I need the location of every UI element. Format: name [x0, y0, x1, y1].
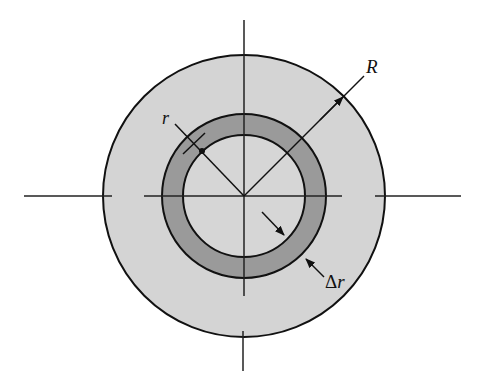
delta-symbol: Δ — [325, 271, 337, 292]
ring-thickness-variable: r — [337, 271, 344, 292]
inner-radius-point — [199, 148, 205, 154]
inner-radius-label: r — [162, 109, 169, 127]
concentric-circles-diagram — [0, 0, 483, 382]
ring-thickness-label: Δr — [325, 272, 345, 291]
outer-radius-label: R — [366, 57, 378, 76]
